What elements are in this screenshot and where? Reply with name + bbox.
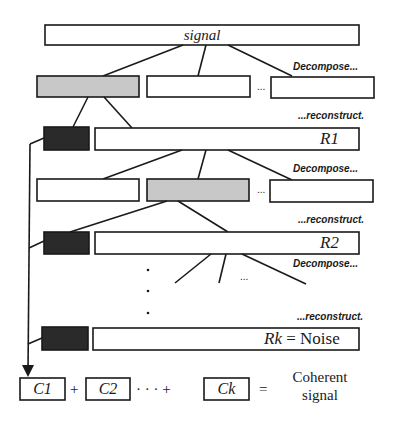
component-block-2 [44, 232, 89, 254]
c2-label: C2 [86, 379, 130, 399]
ellipsis: ... [257, 184, 265, 195]
rk-noise: = Noise [282, 329, 340, 348]
plus-sign: + [70, 379, 78, 399]
component-block-k [42, 327, 88, 350]
coherent-signal-label: Coherent signal [286, 368, 354, 404]
result-line-2: signal [286, 386, 354, 404]
ellipsis: ... [257, 81, 265, 92]
rk-var: Rk [264, 329, 282, 348]
arrow-down-icon [22, 365, 34, 377]
ellipsis: ... [240, 271, 248, 282]
decompose-label: Decompose... [293, 163, 358, 174]
selected-subband-1 [37, 76, 139, 97]
subband-box [37, 179, 139, 201]
reconstruct-label: ...reconstruct. [297, 311, 363, 322]
equals-sign: = [259, 379, 267, 399]
reconstruct-label: ...reconstruct. [298, 214, 364, 225]
decomposition-diagram: signal Decompose... ... ...reconstruct. … [0, 0, 394, 430]
result-line-1: Coherent [286, 368, 354, 386]
r2-label: R2 [320, 233, 339, 253]
subband-box [147, 76, 250, 97]
selected-subband-2 [147, 179, 249, 201]
subband-box [270, 180, 373, 202]
rk-label: Rk = Noise [264, 329, 340, 349]
reconstruct-label: ...reconstruct. [298, 110, 364, 121]
signal-label: signal [45, 26, 359, 44]
decompose-label: Decompose... [293, 61, 358, 72]
subband-box [271, 77, 374, 98]
ck-label: Ck [204, 379, 249, 399]
dots-plus: · · · + [136, 379, 171, 399]
c1-label: C1 [20, 379, 65, 399]
r1-label: R1 [320, 129, 339, 149]
decompose-label: Decompose... [293, 258, 358, 269]
component-block-1 [44, 127, 89, 150]
